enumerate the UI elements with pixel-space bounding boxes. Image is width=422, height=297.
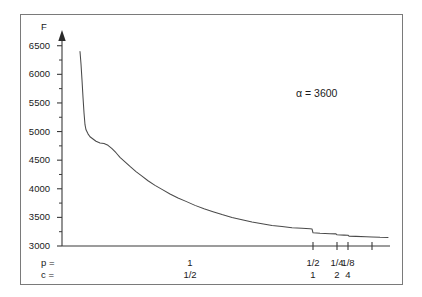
x-tick-label-p: 1/8 <box>332 258 364 268</box>
x-row-head-p: p = <box>41 258 54 268</box>
y-axis-tick-label: 5000 <box>10 127 50 137</box>
x-tick-label-c: 4 <box>332 270 364 280</box>
y-axis-tick-label: 6000 <box>10 69 50 79</box>
y-axis-arrow <box>58 30 65 41</box>
y-axis-tick-label: 4000 <box>10 184 50 194</box>
x-row-head-c: c = <box>41 270 54 280</box>
y-axis-tick-label: 5500 <box>10 98 50 108</box>
x-tick-label-c: 1/2 <box>174 270 206 280</box>
data-series-line <box>80 51 388 237</box>
y-axis-tick-label: 3000 <box>10 241 50 251</box>
y-axis-tick-label: 4500 <box>10 155 50 165</box>
alpha-annotation: α = 3600 <box>296 88 337 99</box>
figure-container: F 30003500400045005000550060006500 α = 3… <box>0 0 422 297</box>
y-axis-tick-label: 6500 <box>10 41 50 51</box>
y-axis-title: F <box>41 22 47 32</box>
chart-plot-area <box>0 0 422 297</box>
y-axis-tick-label: 3500 <box>10 212 50 222</box>
x-tick-label-p: 1 <box>174 258 206 268</box>
y-axis-group <box>58 30 65 246</box>
